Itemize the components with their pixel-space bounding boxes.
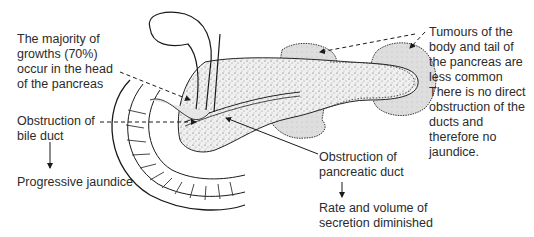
label-progressive-jaundice: Progressive jaundice xyxy=(17,175,133,190)
pancreas-diagram: The majority of growths (70%) occur in t… xyxy=(0,0,534,237)
label-pancreatic-duct-obstruction: Obstruction of pancreatic duct xyxy=(319,150,404,180)
label-secretion-diminished: Rate and volume of secretion diminished xyxy=(319,201,433,231)
label-majority-growths: The majority of growths (70%) occur in t… xyxy=(17,32,113,92)
majority-pointer xyxy=(120,72,190,100)
label-tumours-body-tail: Tumours of the body and tail of the panc… xyxy=(429,25,526,160)
label-bile-duct-obstruction: Obstruction of bile duct xyxy=(17,114,95,144)
